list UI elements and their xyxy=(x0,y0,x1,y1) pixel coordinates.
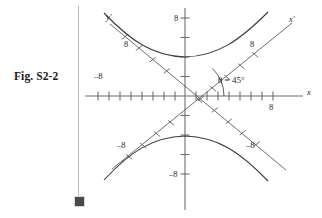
y-axis-tick-label-positive: 8 xyxy=(174,13,178,23)
figure-s2-2: Fig. S2-2 xyxy=(0,0,322,218)
y-prime-tick-label-negative: –8 xyxy=(245,140,255,150)
y-prime-axis-group xyxy=(110,24,286,170)
x-prime-tick-label-negative: –8 xyxy=(116,140,126,150)
x-axis-group xyxy=(85,92,303,101)
y-prime-tick xyxy=(212,108,218,113)
y-axis-group xyxy=(181,8,190,210)
x-prime-tick-label-positive: 8 xyxy=(250,39,254,49)
y-axis-tick-label-negative: –8 xyxy=(168,169,178,179)
hyperbola-plot: y′ x′ x 8 –8 8 –8 8 8 –8 –8 θ = 45° xyxy=(0,0,322,218)
y-prime-axis xyxy=(110,24,286,170)
x-axis-tick-label-positive: 8 xyxy=(269,102,273,112)
y-prime-tick-label-positive: 8 xyxy=(124,39,128,49)
x-axis-tick-label-negative: –8 xyxy=(93,71,103,81)
hyperbola-upper-branch xyxy=(104,12,268,57)
y-prime-axis-label: y′ xyxy=(105,12,112,22)
x-axis-label: x xyxy=(306,87,311,97)
theta-annotation: θ = 45° xyxy=(218,75,245,85)
x-prime-axis-label: x′ xyxy=(288,14,295,24)
